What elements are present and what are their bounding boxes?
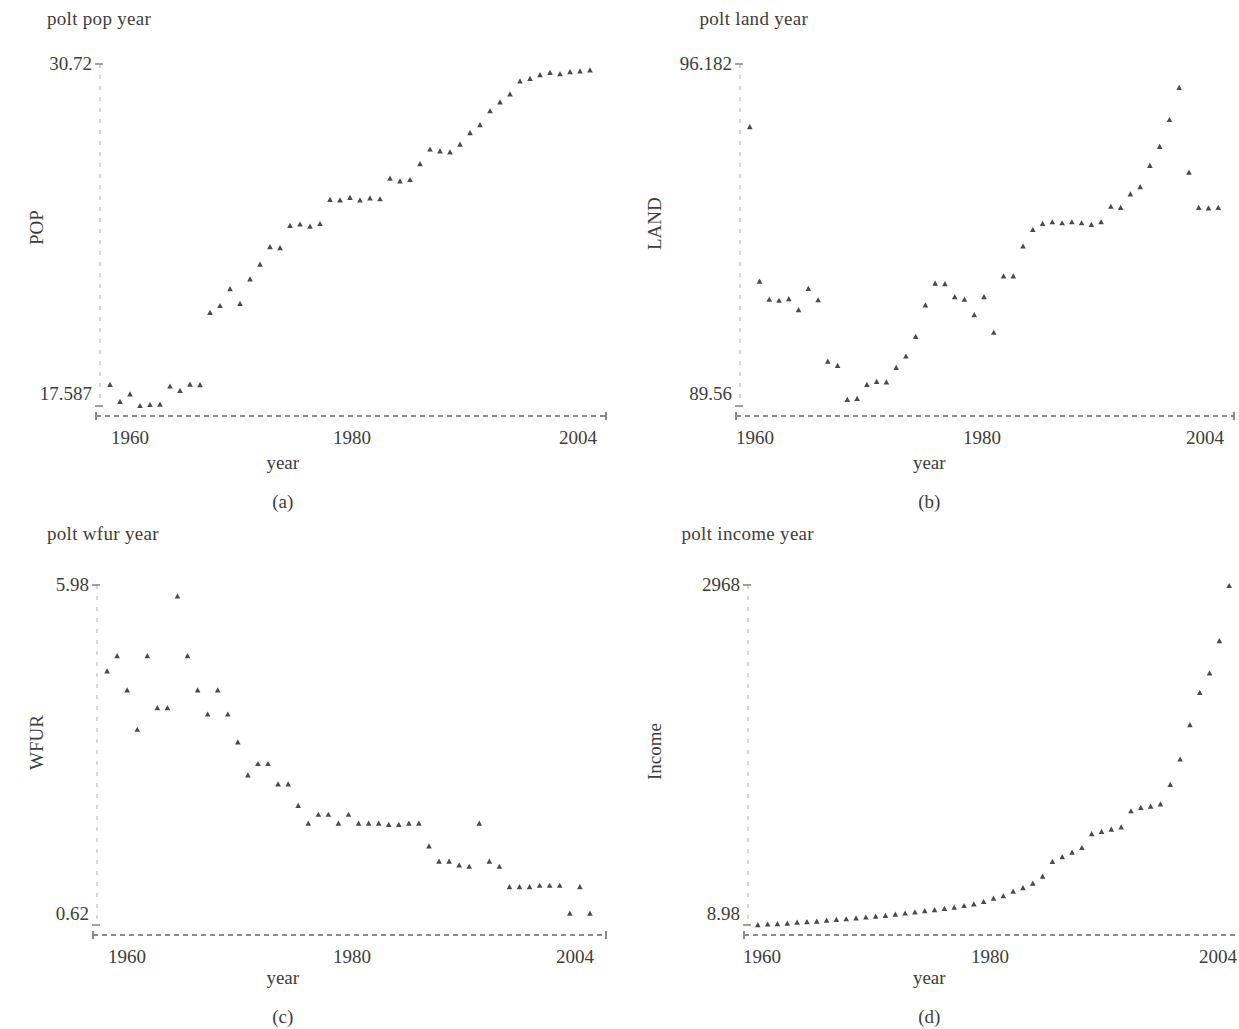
- data-point: [285, 781, 291, 786]
- data-point: [346, 811, 352, 816]
- data-point: [980, 898, 986, 903]
- data-point: [537, 882, 543, 887]
- data-point: [1000, 273, 1006, 278]
- data-point: [883, 379, 889, 384]
- data-point: [305, 820, 311, 825]
- data-point: [217, 303, 223, 308]
- data-point: [853, 915, 859, 920]
- data-point: [237, 301, 243, 306]
- data-point: [376, 820, 382, 825]
- data-point: [1117, 205, 1123, 210]
- data-point: [265, 760, 271, 765]
- y-tick-label-min: 89.56: [689, 383, 732, 404]
- x-tick-label: 2004: [1199, 946, 1238, 967]
- data-point: [864, 382, 870, 387]
- data-point: [177, 388, 183, 393]
- data-point: [1167, 781, 1173, 786]
- data-point: [931, 906, 937, 911]
- data-point: [187, 382, 193, 387]
- panel-d-xlabel: year: [620, 967, 1239, 989]
- data-point: [317, 221, 323, 226]
- data-point: [357, 197, 363, 202]
- data-point: [497, 863, 503, 868]
- data-point: [517, 78, 523, 83]
- data-point: [356, 820, 362, 825]
- data-point: [1205, 205, 1211, 210]
- panel-b: polt land year 96.18289.56196019802004 L…: [620, 0, 1239, 515]
- y-tick-label-max: 30.72: [49, 53, 92, 74]
- data-point: [1177, 756, 1183, 761]
- panel-a-xlabel: year: [0, 452, 593, 474]
- data-point: [124, 687, 130, 692]
- data-point: [813, 918, 819, 923]
- x-tick-label: 1960: [736, 427, 774, 448]
- data-point: [825, 359, 831, 364]
- data-point: [195, 687, 201, 692]
- data-point: [844, 397, 850, 402]
- y-tick-label-min: 0.62: [56, 903, 89, 924]
- data-point: [175, 593, 181, 598]
- data-point: [366, 820, 372, 825]
- y-tick-label-min: 8.98: [706, 903, 739, 924]
- data-point: [476, 820, 482, 825]
- data-point: [902, 910, 908, 915]
- data-point: [794, 919, 800, 924]
- data-point: [165, 705, 171, 710]
- data-point: [1138, 804, 1144, 809]
- data-point: [1079, 844, 1085, 849]
- data-point: [557, 71, 563, 76]
- data-point: [104, 668, 110, 673]
- data-point: [185, 653, 191, 658]
- data-point: [1157, 801, 1163, 806]
- data-point: [843, 916, 849, 921]
- data-point: [893, 365, 899, 370]
- data-point: [517, 883, 523, 888]
- data-point: [834, 363, 840, 368]
- data-point: [507, 91, 513, 96]
- data-point: [1215, 205, 1221, 210]
- data-point: [1010, 888, 1016, 893]
- panel-c-xlabel: year: [0, 967, 593, 989]
- data-point: [466, 863, 472, 868]
- data-point: [990, 895, 996, 900]
- data-point: [427, 146, 433, 151]
- data-point: [477, 122, 483, 127]
- data-point: [1147, 163, 1153, 168]
- data-point: [567, 69, 573, 74]
- figure-grid: polt pop year 30.7217.587196019802004 PO…: [0, 0, 1239, 1029]
- data-point: [307, 223, 313, 228]
- data-point: [247, 276, 253, 281]
- data-point: [873, 379, 879, 384]
- scatter-series: [104, 593, 592, 915]
- panel-c-plot: 5.980.62196019802004: [0, 515, 619, 1029]
- data-point: [833, 916, 839, 921]
- x-tick-label: 2004: [556, 946, 595, 967]
- data-point: [277, 245, 283, 250]
- data-point: [903, 353, 909, 358]
- data-point: [756, 279, 762, 284]
- data-point: [107, 382, 113, 387]
- data-point: [863, 914, 869, 919]
- data-point: [764, 921, 770, 926]
- data-point: [755, 922, 761, 927]
- data-point: [912, 334, 918, 339]
- data-point: [951, 294, 957, 299]
- data-point: [1039, 873, 1045, 878]
- panel-d-ylabel: Income: [644, 723, 666, 780]
- data-point: [134, 726, 140, 731]
- data-point: [587, 67, 593, 72]
- panel-b-caption: (b): [620, 491, 1239, 513]
- data-point: [114, 653, 120, 658]
- data-point: [257, 262, 263, 267]
- data-point: [287, 223, 293, 228]
- data-point: [1010, 273, 1016, 278]
- data-point: [297, 221, 303, 226]
- data-point: [337, 197, 343, 202]
- data-point: [971, 901, 977, 906]
- data-point: [267, 244, 273, 249]
- panel-a-plot: 30.7217.587196019802004: [0, 0, 619, 515]
- panel-d-caption: (d): [620, 1006, 1239, 1028]
- data-point: [497, 99, 503, 104]
- data-point: [854, 396, 860, 401]
- panel-c-ylabel: WFUR: [26, 715, 48, 770]
